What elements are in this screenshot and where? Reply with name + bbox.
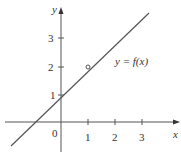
y-tick-label-2: 2	[48, 61, 54, 73]
x-tick-label-1: 1	[85, 131, 91, 143]
y-axis	[59, 7, 64, 152]
x-axis-arrow-icon	[173, 120, 180, 125]
origin-label: 0	[52, 127, 58, 139]
y-axis-arrow-icon	[59, 7, 64, 14]
x-axis-label: x	[172, 128, 178, 140]
open-circle-hole	[86, 65, 90, 69]
function-line	[11, 13, 149, 146]
y-tick-label-1: 1	[50, 89, 56, 101]
y-tick-label-3: 3	[48, 32, 54, 44]
x-tick-label-3: 3	[139, 131, 145, 143]
function-graph: y x 0 1 2 3 1 2 3 y = f(x)	[0, 0, 181, 161]
curve-label: y = f(x)	[114, 55, 148, 68]
x-axis	[5, 120, 180, 125]
y-axis-label: y	[51, 3, 57, 15]
x-tick-label-2: 2	[112, 131, 118, 143]
